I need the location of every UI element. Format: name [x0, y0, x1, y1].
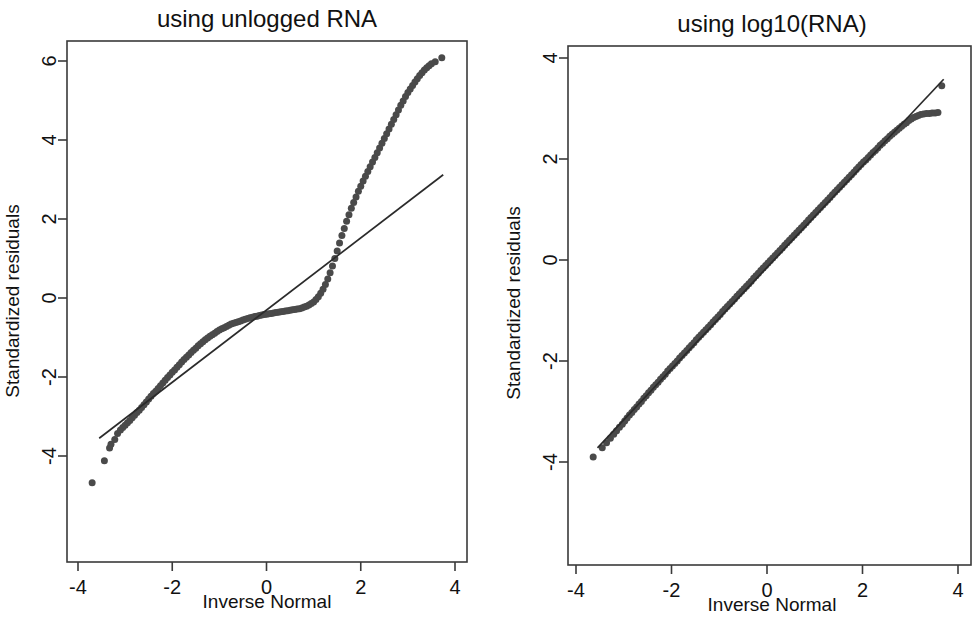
y-axis-tick-label: -2: [38, 368, 60, 386]
plot-frame: [568, 46, 971, 565]
y-axis-tick-label: -4: [38, 447, 60, 465]
x-axis-tick-label: -4: [567, 579, 585, 601]
plot-frame: [67, 41, 467, 562]
plot-area: [590, 79, 946, 460]
data-point: [324, 276, 331, 283]
qq-plot-log10-svg: -4-2024-4-2024Inverse NormalStandardized…: [489, 0, 978, 627]
y-axis-tick-label: 4: [539, 52, 561, 63]
x-axis-title: Inverse Normal: [203, 591, 332, 612]
x-axis-tick-label: -2: [163, 576, 181, 598]
y-axis-tick-label: 0: [38, 292, 60, 303]
y-axis-tick-label: -2: [539, 352, 561, 370]
panel-title: using log10(RNA): [677, 10, 866, 37]
y-axis-tick-label: 6: [38, 55, 60, 66]
y-axis-tick-label: 2: [539, 153, 561, 164]
qq-plot-log10-panel: -4-2024-4-2024Inverse NormalStandardized…: [489, 0, 978, 627]
y-axis-title: Standardized residuals: [503, 206, 524, 399]
figure-canvas: -4-2024-4-20246Inverse NormalStandardize…: [0, 0, 978, 627]
data-series: [590, 82, 946, 460]
qq-plot-unlogged-svg: -4-2024-4-20246Inverse NormalStandardize…: [0, 0, 489, 627]
panel-title: using unlogged RNA: [157, 5, 377, 32]
x-axis-tick-label: -4: [69, 576, 87, 598]
x-axis-tick-label: 4: [952, 579, 963, 601]
data-point: [934, 109, 941, 116]
data-point: [590, 453, 597, 460]
data-point: [89, 479, 96, 486]
x-axis-tick-label: 2: [355, 576, 366, 598]
y-axis-title: Standardized residuals: [2, 204, 23, 397]
reference-line: [99, 175, 443, 438]
data-point: [341, 225, 348, 232]
data-point: [432, 58, 439, 65]
plot-area: [89, 54, 446, 486]
data-point: [327, 269, 334, 276]
y-axis-tick-label: -4: [539, 453, 561, 471]
qq-plot-unlogged-panel: -4-2024-4-20246Inverse NormalStandardize…: [0, 0, 489, 627]
data-point: [343, 218, 350, 225]
data-point: [438, 54, 445, 61]
y-axis-tick-label: 4: [38, 134, 60, 145]
data-point: [338, 232, 345, 239]
x-axis-tick-label: -2: [663, 579, 681, 601]
x-axis-tick-label: 2: [857, 579, 868, 601]
reference-line: [597, 79, 943, 448]
data-series: [89, 54, 446, 486]
data-point: [329, 263, 336, 270]
x-axis-title: Inverse Normal: [708, 594, 837, 615]
y-axis-tick-label: 2: [38, 213, 60, 224]
y-axis-tick-label: 0: [539, 254, 561, 265]
data-point: [345, 211, 352, 218]
data-point: [101, 457, 108, 464]
x-axis-tick-label: 4: [449, 576, 460, 598]
data-point: [336, 240, 343, 247]
